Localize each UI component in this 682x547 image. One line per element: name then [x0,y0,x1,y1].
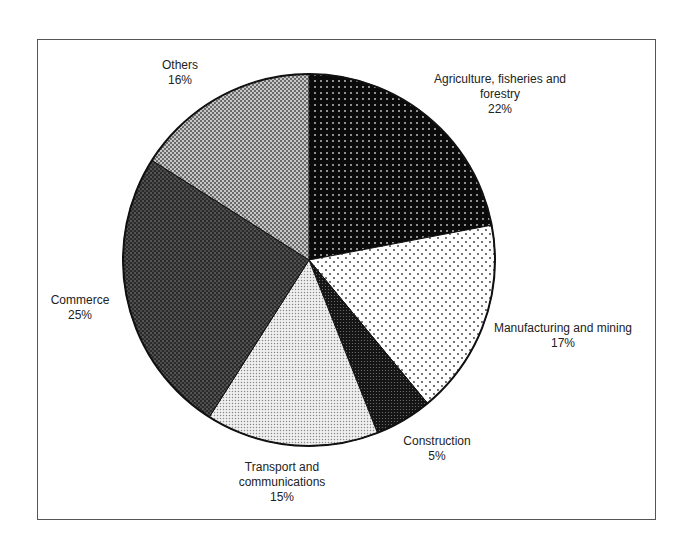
label-value: 17% [478,336,648,351]
label-value: 15% [222,490,342,505]
label-manufacturing: Manufacturing and mining 17% [478,321,648,351]
label-text: Transport and [222,460,342,475]
label-value: 25% [40,308,120,323]
label-others: Others 16% [155,58,205,88]
pie-slices [123,74,495,446]
label-text: Manufacturing and mining [478,321,648,336]
label-text: Commerce [40,293,120,308]
label-transport: Transport and communications 15% [222,460,342,505]
label-value: 16% [155,73,205,88]
label-agriculture: Agriculture, fisheries and forestry 22% [425,72,575,117]
label-text: Others [155,58,205,73]
label-text: communications [222,475,342,490]
label-value: 22% [425,102,575,117]
label-commerce: Commerce 25% [40,293,120,323]
label-text: Agriculture, fisheries and [425,72,575,87]
label-text: Construction [397,434,477,449]
label-value: 5% [397,449,477,464]
label-text: forestry [425,87,575,102]
label-construction: Construction 5% [397,434,477,464]
